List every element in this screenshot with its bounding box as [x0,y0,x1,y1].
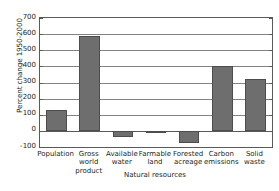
x-axis-category-label: Solidwaste [234,150,275,167]
bar [245,79,266,131]
bar [79,36,100,131]
tick-mark-left--100 [40,147,43,148]
y-axis-tick-labels: 7006005004003002001000-100 [8,12,36,152]
bars-group [40,18,272,147]
y-tick-label-0: 0 [32,126,36,133]
bracket-label: Natural resources [109,171,202,179]
x-axis-label-line: product [68,167,109,175]
bar [146,131,167,133]
natural-resources-bracket: Natural resources [39,175,273,189]
plot-area [39,17,273,148]
bar-slot [146,18,167,147]
bar-slot [113,18,134,147]
tick-mark-right--100 [269,147,272,148]
bar [179,131,200,143]
bar-slot [179,18,200,147]
bar-chart-figure: Percent change 1950-2000 700600500400300… [0,0,279,191]
bar-slot [245,18,266,147]
bar-slot [46,18,67,147]
y-tick-label-300: 300 [23,78,36,85]
bar-slot [79,18,100,147]
x-axis-label-line: waste [234,158,275,166]
bar [113,131,134,137]
bar [46,110,67,131]
y-tick-label--100: -100 [20,143,36,150]
y-tick-label-100: 100 [23,110,36,117]
y-tick-label-700: 700 [23,14,36,21]
y-tick-label-500: 500 [23,46,36,53]
y-tick-label-200: 200 [23,94,36,101]
x-axis-label-line: Solid [234,150,275,158]
y-tick-label-600: 600 [23,30,36,37]
bar [212,66,233,131]
y-tick-label-400: 400 [23,62,36,69]
bar-slot [212,18,233,147]
